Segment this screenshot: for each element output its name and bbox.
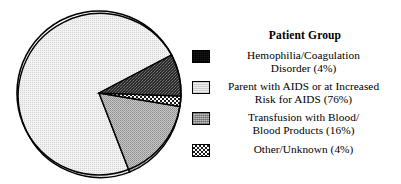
swatch-medium-gray-icon [192,112,210,125]
legend-label-line2: Risk for AIDS (76%) [216,93,391,106]
legend-item-other-unknown[interactable]: Other/Unknown (4%) [188,143,401,163]
legend-item-hemophilia[interactable]: Hemophilia/Coagulation Disorder (4%) [188,49,401,74]
legend-title: Patient Group [212,26,398,42]
legend-label-transfusion: Transfusion with Blood/ Blood Products (… [216,111,391,136]
legend-label-line1: Hemophilia/Coagulation [247,49,360,61]
legend-label-line2: Disorder (4%) [216,62,391,75]
legend-label-line1: Other/Unknown (4%) [254,143,354,155]
legend-item-transfusion[interactable]: Transfusion with Blood/ Blood Products (… [188,111,401,136]
legend-label-other-unknown: Other/Unknown (4%) [216,143,391,156]
legend-item-parent-with-aids[interactable]: Parent with AIDS or at Increased Risk fo… [188,80,401,105]
pie-chart-figure: Patient Group Hemophilia/Coagulation Dis… [0,0,401,184]
legend: Patient Group Hemophilia/Coagulation Dis… [188,26,401,184]
pie-svg [0,0,200,184]
swatch-dark-stipple-icon [192,50,210,63]
legend-label-parent-with-aids: Parent with AIDS or at Increased Risk fo… [216,80,391,105]
swatch-light-stipple-icon [192,81,210,94]
swatch-checkerboard-icon [192,144,210,157]
legend-label-line1: Parent with AIDS or at Increased [228,80,379,92]
legend-label-hemophilia: Hemophilia/Coagulation Disorder (4%) [216,49,391,74]
legend-label-line1: Transfusion with Blood/ [248,111,359,123]
pie-chart-graphic [0,0,200,184]
legend-label-line2: Blood Products (16%) [216,124,391,137]
